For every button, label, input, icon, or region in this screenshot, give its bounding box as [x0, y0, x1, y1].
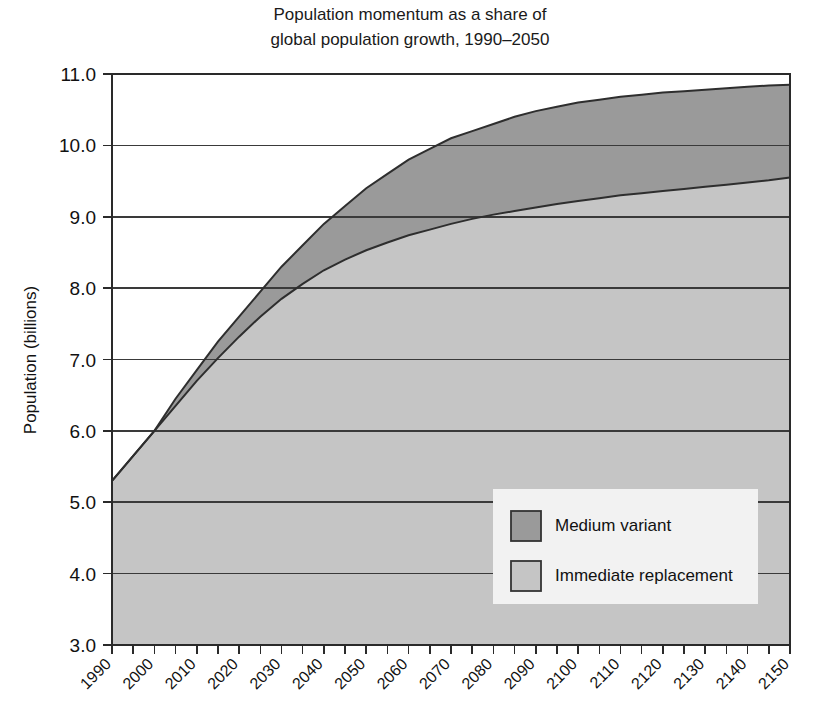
y-tick-label: 6.0	[70, 421, 96, 442]
y-tick-label: 9.0	[70, 207, 96, 228]
y-tick-label: 11.0	[60, 64, 96, 85]
legend-swatch-medium-variant	[511, 511, 541, 541]
population-momentum-chart: Population momentum as a share of global…	[0, 0, 830, 719]
y-tick-label: 7.0	[70, 350, 96, 371]
legend-label-medium-variant: Medium variant	[555, 516, 671, 535]
y-tick-label: 10.0	[59, 135, 96, 156]
y-tick-label: 8.0	[70, 278, 96, 299]
legend-swatch-immediate-replacement	[511, 561, 541, 591]
y-tick-label: 4.0	[70, 564, 96, 585]
chart-legend: Medium variantImmediate replacement	[493, 489, 758, 604]
y-tick-label: 5.0	[70, 492, 96, 513]
legend-label-immediate-replacement: Immediate replacement	[555, 566, 733, 585]
chart-title-line-1: Population momentum as a share of	[273, 5, 546, 24]
chart-title-line-2: global population growth, 1990–2050	[271, 30, 550, 49]
y-axis-title: Population (billions)	[21, 286, 40, 434]
chart-canvas: Population momentum as a share of global…	[0, 0, 830, 719]
y-tick-label: 3.0	[70, 635, 96, 656]
